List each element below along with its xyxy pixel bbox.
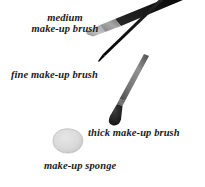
make-up-sponge-icon bbox=[52, 128, 84, 154]
label-medium-line1: medium bbox=[47, 12, 83, 23]
label-medium-line2: make-up brush bbox=[26, 23, 104, 34]
label-make-up-sponge: make-up sponge bbox=[44, 160, 116, 171]
make-up-tools-figure: medium make-up brush fine make-up brush … bbox=[0, 0, 205, 187]
label-fine-make-up-brush: fine make-up brush bbox=[11, 69, 98, 80]
thick-make-up-brush-icon bbox=[0, 45, 205, 130]
label-medium-make-up-brush: medium make-up brush bbox=[26, 12, 104, 34]
label-thick-make-up-brush: thick make-up brush bbox=[88, 127, 180, 138]
